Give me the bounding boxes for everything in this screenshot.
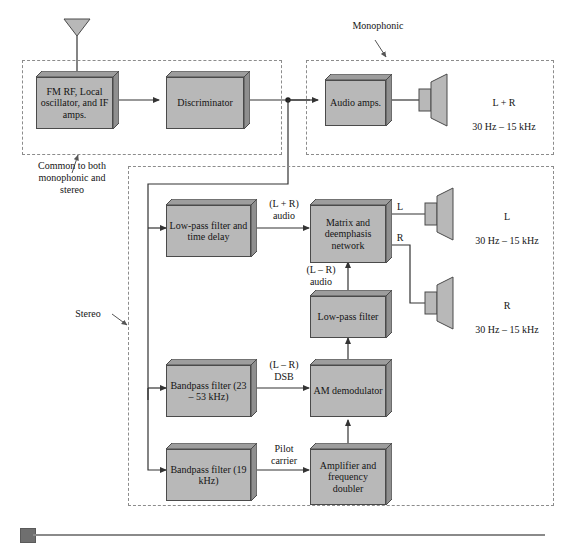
block-face: Bandpass filter (19 kHz) [166, 449, 251, 501]
output-label-left: L 30 Hz – 15 kHz [458, 199, 556, 259]
block-face: Bandpass filter (23 – 53 kHz) [166, 365, 251, 417]
signal-label-lmr-audio: (L – R) audio [296, 264, 346, 288]
region-label-monophonic: Monophonic [330, 20, 426, 32]
block-label: Amplifier and frequency doubler [311, 460, 385, 495]
block-label: Discriminator [175, 97, 235, 109]
output-label-right: R 30 Hz – 15 kHz [458, 288, 556, 348]
output-channel: R [458, 300, 556, 312]
output-label-mono: L + R 30 Hz – 15 kHz [455, 85, 553, 145]
footer-rule-line [33, 534, 545, 536]
signal-label-out-r: R [392, 232, 408, 244]
output-channel: L [458, 211, 556, 223]
block-face: FM RF, Local oscillator, and IF amps. [36, 77, 113, 129]
block-discriminator[interactable]: Discriminator [166, 71, 250, 129]
block-bpf-23-53[interactable]: Bandpass filter (23 – 53 kHz) [166, 359, 257, 417]
block-label: Bandpass filter (23 – 53 kHz) [167, 380, 250, 403]
signal-label-pilot-carrier: Pilot carrier [259, 443, 309, 467]
block-am-demodulator[interactable]: AM demodulator [310, 359, 392, 417]
region-label-common: Common to both monophonic and stereo [8, 160, 136, 196]
block-label: AM demodulator [311, 385, 384, 397]
callout-line-stereo [112, 314, 127, 325]
block-face: Amplifier and frequency doubler [310, 449, 386, 505]
block-label: Low-pass filter [316, 311, 381, 323]
block-face: Low-pass filter and time delay [166, 205, 251, 257]
block-matrix[interactable]: Matrix and deemphasis network [310, 199, 392, 263]
block-face: Audio amps. [325, 80, 386, 126]
callout-line-monophonic [375, 40, 386, 57]
block-lpf-delay[interactable]: Low-pass filter and time delay [166, 199, 257, 257]
block-label: Bandpass filter (19 kHz) [167, 464, 250, 487]
block-lpf-lr[interactable]: Low-pass filter [310, 290, 392, 338]
output-range: 30 Hz – 15 kHz [458, 235, 556, 247]
block-label: FM RF, Local oscillator, and IF amps. [37, 86, 112, 121]
output-channel: L + R [455, 97, 553, 109]
block-audio-amps[interactable]: Audio amps. [325, 74, 392, 126]
output-range: 30 Hz – 15 kHz [455, 121, 553, 133]
block-label: Matrix and deemphasis network [311, 217, 385, 252]
block-face: Low-pass filter [310, 296, 386, 338]
block-fm-rf[interactable]: FM RF, Local oscillator, and IF amps. [36, 71, 119, 129]
signal-label-lpr-audio: (L + R) audio [259, 198, 309, 222]
block-bpf-19[interactable]: Bandpass filter (19 kHz) [166, 443, 257, 501]
block-label: Audio amps. [328, 97, 383, 109]
block-face: Matrix and deemphasis network [310, 205, 386, 263]
block-face: AM demodulator [310, 365, 386, 417]
block-face: Discriminator [166, 77, 244, 129]
output-range: 30 Hz – 15 kHz [458, 324, 556, 336]
block-label: Low-pass filter and time delay [167, 220, 250, 243]
fm-stereo-receiver-figure: FM RF, Local oscillator, and IF amps. Di… [0, 0, 562, 548]
block-amp-doubler[interactable]: Amplifier and frequency doubler [310, 443, 392, 505]
signal-label-out-l: L [392, 201, 408, 213]
region-label-stereo: Stereo [64, 308, 112, 320]
signal-label-lmr-dsb: (L – R) DSB [259, 359, 309, 383]
